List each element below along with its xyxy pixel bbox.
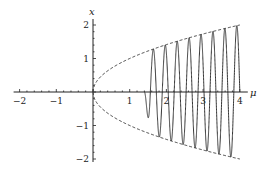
bifurcation-chart: −2−1123421−1−2 μ x	[0, 0, 266, 171]
y-tick-label: 1	[83, 54, 89, 64]
x-tick-label: −2	[13, 96, 26, 106]
x-tick-label: −1	[50, 96, 63, 106]
x-tick-label: 2	[164, 96, 170, 106]
axes	[14, 19, 248, 162]
x-tick-label: 3	[200, 96, 206, 106]
x-tick-label: 4	[237, 96, 243, 106]
y-tick-label: −1	[76, 121, 89, 131]
y-axis-label: x	[89, 6, 95, 17]
y-tick-label: −2	[76, 154, 89, 164]
x-tick-label: 1	[127, 96, 133, 106]
y-tick-label: 2	[83, 20, 89, 30]
x-axis-label: μ	[250, 87, 257, 98]
